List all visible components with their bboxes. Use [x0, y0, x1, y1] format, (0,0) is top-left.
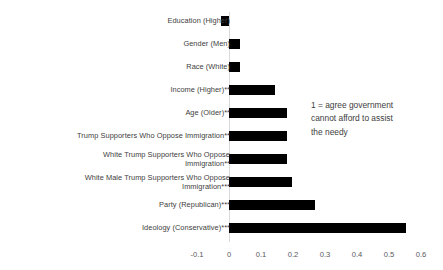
x-tick-label: 0.4: [342, 250, 372, 259]
x-tick-label: 0.1: [246, 250, 276, 259]
x-tick-label: 0.3: [310, 250, 340, 259]
category-label: Trump Supporters Who Oppose Immigration*…: [77, 131, 230, 140]
category-label: Education (Higher): [167, 16, 230, 25]
bar: [229, 39, 240, 49]
x-tick-label: 0.6: [406, 250, 436, 259]
category-label: White Trump Supporters Who Oppose Immigr…: [103, 150, 230, 168]
bar: [229, 200, 315, 210]
category-label: Race (White): [186, 62, 230, 71]
bar: [229, 108, 287, 118]
category-label: Age (Older)**: [185, 108, 230, 117]
bar: [229, 223, 406, 233]
category-label: Party (Republican)***: [159, 200, 230, 209]
x-tick-label: 0.2: [278, 250, 308, 259]
x-tick-label: 0.5: [374, 250, 404, 259]
category-label: Gender (Men): [183, 39, 230, 48]
x-tick-label: -0.1: [182, 250, 212, 259]
bar: [229, 154, 287, 164]
bar: [229, 177, 292, 187]
category-label: Ideology (Conservative)***: [142, 223, 230, 232]
x-tick-label: 0: [214, 250, 244, 259]
horizontal-bar-chart: 1 = agree government cannot afford to as…: [0, 0, 443, 270]
bar: [229, 62, 240, 72]
bar: [229, 131, 287, 141]
bar: [229, 85, 275, 95]
chart-annotation: 1 = agree government cannot afford to as…: [311, 99, 443, 139]
category-label: Income (Higher)**: [170, 85, 230, 94]
category-label: White Male Trump Supporters Who Oppose I…: [85, 173, 230, 191]
